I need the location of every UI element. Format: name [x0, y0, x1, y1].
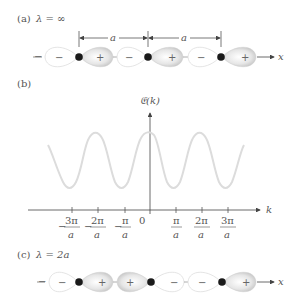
panel-b: (b) 𝔈(k) k − 3π a − 2π a	[17, 78, 272, 240]
lobe-sign: +	[242, 277, 250, 288]
x-axis-label: x	[278, 51, 284, 62]
atom	[144, 53, 152, 61]
panel-c-label: (c)	[17, 249, 31, 260]
orbital-lobe-positive	[223, 272, 256, 292]
tight-binding-diagram: (a) λ = ∞ a a − − + − +	[0, 0, 301, 301]
tick-label-neg-pi: − π a	[114, 215, 131, 240]
tick-label-2pi: 2π a	[194, 215, 210, 240]
origin-label: 0	[139, 215, 145, 226]
panel-c: (c) λ = 2a − − + + − − + x	[17, 249, 284, 292]
lobe-sign: −	[198, 277, 206, 288]
tick-den: a	[122, 229, 128, 240]
lobe-sign: −	[197, 52, 205, 63]
tick-num: 2π	[195, 215, 208, 226]
panel-a-lambda: λ = ∞	[35, 13, 65, 24]
tick-den: a	[94, 229, 100, 240]
tick-num: 3π	[65, 215, 78, 226]
tick-label-3pi: 3π a	[220, 215, 236, 240]
atom	[217, 53, 225, 61]
tick-den: a	[173, 229, 179, 240]
orbital-lobe-positive	[149, 47, 183, 67]
tick-den: a	[224, 229, 230, 240]
tick-den: a	[198, 229, 204, 240]
panel-a: (a) λ = ∞ a a − − + − +	[17, 13, 284, 67]
tick-label-neg-2pi: − 2π a	[84, 215, 106, 240]
orbital-chain-a: − − + − + − + x	[33, 47, 284, 67]
atom	[147, 278, 155, 286]
orbital-lobe-negative	[152, 272, 184, 292]
spacing-label-a: a	[181, 32, 187, 43]
tick-num: π	[173, 215, 180, 226]
tick-label-pi: π a	[171, 215, 182, 240]
tick-den: a	[68, 229, 74, 240]
atom	[75, 53, 83, 61]
panel-c-lambda: λ = 2a	[35, 249, 69, 260]
orbital-lobe-positive	[80, 272, 113, 292]
lobe-sign: −	[55, 52, 63, 63]
tick-num: π	[122, 215, 129, 226]
lobe-sign: +	[126, 277, 134, 288]
lobe-sign: −	[125, 52, 133, 63]
lobe-sign: +	[168, 52, 176, 63]
dispersion-curve	[48, 132, 244, 188]
lobe-sign: −	[170, 277, 178, 288]
spacing-label-a: a	[110, 32, 116, 43]
tail-sign: −	[34, 51, 42, 62]
lobe-sign: +	[241, 52, 249, 63]
y-axis-label: 𝔈(k)	[140, 95, 160, 106]
x-axis-label: k	[266, 204, 272, 215]
tail-sign: −	[38, 276, 46, 287]
tick-num: 2π	[91, 215, 104, 226]
lobe-sign: +	[98, 277, 106, 288]
atom	[75, 278, 83, 286]
lobe-sign: +	[96, 52, 104, 63]
panel-a-label: (a)	[17, 13, 31, 24]
atom	[218, 278, 226, 286]
panel-b-label: (b)	[17, 78, 31, 89]
tick-label-neg-3pi: − 3π a	[58, 215, 80, 240]
orbital-chain-c: − − + + − − + x	[37, 272, 284, 292]
tick-num: 3π	[221, 215, 234, 226]
orbital-lobe-positive	[222, 47, 256, 67]
x-axis-label: x	[278, 276, 284, 287]
lobe-sign: −	[58, 277, 66, 288]
